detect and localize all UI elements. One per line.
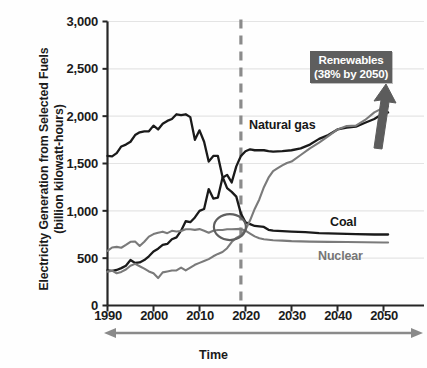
series-label-coal: Coal bbox=[330, 215, 357, 229]
series-label-natural-gas: Natural gas bbox=[249, 118, 315, 132]
chart-container: Electricity Generation from Selected Fue… bbox=[0, 0, 427, 368]
renewables-callout-line2: (38% by 2050) bbox=[314, 67, 388, 81]
renewables-callout-line1: Renewables bbox=[314, 53, 388, 67]
series-label-nuclear: Nuclear bbox=[318, 249, 363, 263]
time-double-arrow-icon bbox=[104, 328, 423, 338]
renewables-callout: Renewables (38% by 2050) bbox=[310, 51, 392, 83]
crossover-circle-icon bbox=[214, 214, 246, 240]
